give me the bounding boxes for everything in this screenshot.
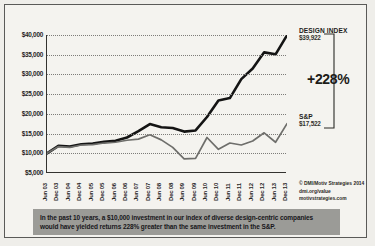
x-tick-label: Dec 06 (122, 183, 128, 201)
x-tick-label: Dec 10 (213, 183, 219, 201)
x-tick-label: Dec 07 (145, 183, 151, 201)
sp-label: S&P (299, 113, 321, 120)
x-tick-label: Dec 03 (53, 183, 59, 201)
x-tick-label: Jun 09 (179, 183, 185, 201)
caption-box: In the past 10 years, a $10,000 investme… (33, 209, 340, 235)
x-tick-label: Dec 11 (236, 183, 242, 201)
percent-gain-label: +228% (307, 71, 349, 87)
chart-frame: $5,000$10,000$15,000$20,000$25,000$30,00… (4, 4, 367, 238)
gridline (47, 114, 286, 115)
x-tick-label: Jun 12 (248, 183, 254, 201)
x-tick-label: Jun 04 (65, 183, 71, 201)
gridline (47, 94, 286, 95)
chart-inner: $5,000$10,000$15,000$20,000$25,000$30,00… (5, 5, 366, 237)
y-tick-label: $25,000 (22, 91, 43, 98)
credits-line-1: © DMI/Motiv Strategies 2014 (299, 180, 364, 188)
x-tick-label: Dec 13 (282, 183, 288, 201)
y-tick-label: $10,000 (22, 150, 43, 157)
x-tick-label: Jun 03 (42, 183, 48, 201)
plot-area (46, 35, 286, 173)
x-tick-label: Jun 07 (133, 183, 139, 201)
gridline (47, 134, 286, 135)
credits-block: © DMI/Motiv Strategies 2014 dmi.org/valu… (299, 180, 364, 203)
credits-line-3: motivstrategies.com (299, 195, 364, 203)
x-tick-label: Dec 12 (259, 183, 265, 201)
y-tick-label: $30,000 (22, 71, 43, 78)
gridline (47, 55, 286, 56)
sp-annotation: S&P $17,522 (299, 113, 321, 127)
y-tick-label: $20,000 (22, 110, 43, 117)
y-tick-label: $5,000 (25, 169, 43, 176)
gridline (47, 35, 286, 36)
x-tick-label: Jun 13 (271, 183, 277, 201)
gridline (47, 74, 286, 75)
x-tick-label: Dec 09 (191, 183, 197, 201)
y-axis-labels: $5,000$10,000$15,000$20,000$25,000$30,00… (5, 35, 46, 173)
x-tick-label: Jun 11 (225, 184, 231, 201)
y-tick-label: $35,000 (22, 51, 43, 58)
y-tick-label: $15,000 (22, 130, 43, 137)
x-tick-label: Jun 06 (111, 183, 117, 201)
x-tick-label: Dec 04 (76, 183, 82, 201)
x-tick-label: Jun 10 (202, 183, 208, 201)
x-tick-label: Dec 08 (168, 183, 174, 201)
y-tick-label: $40,000 (22, 31, 43, 38)
credits-line-2: dmi.org/value (299, 188, 364, 196)
sp-value: $17,522 (299, 120, 321, 127)
x-axis-labels: Jun 03Dec 03Jun 04Dec 04Jun 05Dec 05Jun … (46, 175, 286, 205)
x-tick-label: Jun 05 (88, 183, 94, 201)
x-tick-label: Dec 05 (99, 183, 105, 201)
gridline (47, 153, 286, 154)
caption-line-1: In the past 10 years, a $10,000 investme… (40, 213, 333, 222)
caption-line-2: would have yielded returns 228% greater … (40, 222, 333, 231)
x-tick-label: Jun 08 (156, 183, 162, 201)
